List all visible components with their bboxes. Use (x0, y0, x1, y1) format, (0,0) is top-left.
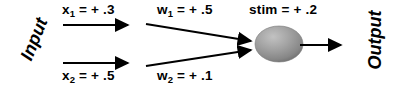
weight-arrow-1 (146, 24, 251, 41)
stim-variable: stim (249, 2, 278, 17)
stim-label: stim = + .2 (249, 3, 317, 17)
stim-value: = + .2 (282, 2, 318, 17)
x1-subscript: 1 (70, 8, 75, 19)
w2-variable: w (157, 68, 168, 83)
output-label: Output (366, 5, 384, 75)
weight-arrow-2 (146, 50, 251, 66)
w1-value: = + .5 (177, 2, 213, 17)
x1-label: x1 = + .3 (62, 3, 115, 17)
summing-neuron-node (255, 26, 303, 62)
x2-subscript: 2 (70, 74, 75, 85)
x2-label: x2 = + .5 (62, 69, 115, 83)
w2-value: = + .1 (177, 68, 213, 83)
w1-label: w1 = + .5 (157, 3, 213, 17)
x1-value: = + .3 (79, 2, 115, 17)
w1-variable: w (157, 2, 168, 17)
x2-value: = + .5 (79, 68, 115, 83)
w2-label: w2 = + .1 (157, 69, 213, 83)
w1-subscript: 1 (168, 8, 173, 19)
neural-network-diagram: Input x1 = + .3 x2 = + .5 w1 = + .5 w2 =… (0, 0, 399, 89)
x2-variable: x (62, 68, 70, 83)
w2-subscript: 2 (168, 74, 173, 85)
x1-variable: x (62, 2, 70, 17)
